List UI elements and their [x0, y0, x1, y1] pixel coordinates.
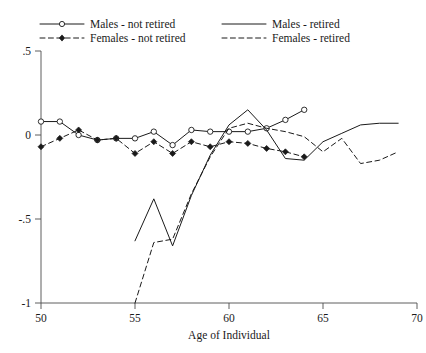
x-axis: 5055606570 Age of Individual [35, 303, 423, 342]
data-point-open-circle-icon [57, 119, 62, 124]
data-point-open-circle-icon [189, 127, 194, 132]
data-point-filled-diamond-icon [170, 150, 176, 156]
y-tick-label: 0 [25, 129, 31, 141]
legend-entry-females-not-retired: Females - not retired [40, 32, 186, 44]
y-tick-label: -1 [21, 297, 31, 309]
x-tick-label: 55 [129, 312, 141, 324]
legend-entry-males-not-retired: Males - not retired [40, 18, 176, 30]
legend-label-males-not-retired: Males - not retired [90, 18, 176, 30]
x-tick-label: 60 [223, 312, 235, 324]
data-point-filled-diamond-icon [76, 127, 82, 133]
data-point-open-circle-icon [151, 129, 156, 134]
x-tick-label: 70 [411, 312, 423, 324]
data-point-open-circle-icon [132, 136, 137, 141]
y-axis-ticks [35, 51, 41, 303]
legend-label-females-not-retired: Females - not retired [90, 32, 186, 44]
x-axis-tick-labels: 5055606570 [35, 312, 423, 324]
legend-label-females-retired: Females - retired [272, 32, 350, 44]
x-axis-ticks [41, 303, 417, 309]
x-tick-label: 65 [317, 312, 329, 324]
data-point-filled-diamond-icon [57, 135, 63, 141]
data-point-filled-diamond-icon [38, 144, 44, 150]
open-circle-icon [59, 21, 64, 26]
y-tick-label: -.5 [19, 213, 32, 225]
filled-diamond-icon [59, 35, 64, 41]
x-axis-title: Age of Individual [188, 329, 270, 342]
data-point-filled-diamond-icon [226, 139, 232, 145]
data-point-open-circle-icon [245, 129, 250, 134]
data-point-open-circle-icon [208, 129, 213, 134]
data-point-filled-diamond-icon [188, 139, 194, 145]
chart-series-group [38, 107, 398, 303]
legend-entry-females-retired: Females - retired [222, 32, 350, 44]
data-point-filled-diamond-icon [207, 144, 213, 150]
data-point-filled-diamond-icon [151, 139, 157, 145]
series-path [135, 110, 398, 246]
chart-legend: Males - not retired Females - not retire… [40, 18, 350, 44]
data-point-open-circle-icon [38, 119, 43, 124]
data-point-filled-diamond-icon [245, 140, 251, 146]
data-point-open-circle-icon [302, 107, 307, 112]
data-point-open-circle-icon [283, 117, 288, 122]
legend-label-males-retired: Males - retired [272, 18, 340, 30]
series-males-retired [135, 110, 398, 246]
y-axis-tick-labels: .50-.5-1 [19, 45, 32, 309]
legend-entry-males-retired: Males - retired [222, 18, 340, 30]
y-axis: .50-.5-1 [19, 45, 41, 309]
data-point-filled-diamond-icon [301, 154, 307, 160]
x-tick-label: 50 [35, 312, 47, 324]
line-chart: Males - not retired Females - not retire… [0, 0, 426, 353]
data-point-open-circle-icon [170, 142, 175, 147]
data-point-filled-diamond-icon [264, 145, 270, 151]
y-tick-label: .5 [22, 45, 31, 57]
data-point-filled-diamond-icon [282, 149, 288, 155]
